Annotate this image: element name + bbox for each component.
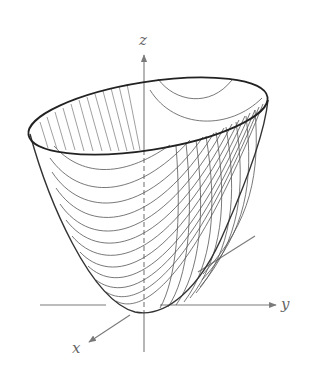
z-axis-label: z <box>139 33 147 48</box>
y-axis-label: y <box>281 297 289 312</box>
paraboloid-figure <box>0 0 327 369</box>
x-axis-label: x <box>72 341 80 356</box>
paraboloid-rim <box>23 63 273 168</box>
paraboloid-diagram: z y x <box>0 0 327 369</box>
paraboloid-outline <box>30 100 268 313</box>
surface-traces <box>50 104 263 308</box>
x-axis-front <box>89 315 130 342</box>
